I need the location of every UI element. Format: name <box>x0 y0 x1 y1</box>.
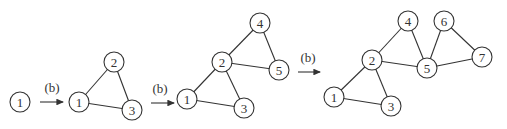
node-label: 3 <box>388 99 395 114</box>
node-label: 7 <box>479 50 486 65</box>
node-2: 2 <box>104 52 124 72</box>
node-6: 6 <box>434 11 454 31</box>
node-5: 5 <box>417 58 437 78</box>
node-3: 3 <box>122 100 142 120</box>
node-7: 7 <box>472 47 492 67</box>
node-label: 4 <box>257 16 264 31</box>
node-label: 1 <box>331 90 338 105</box>
node-label: 1 <box>76 95 83 110</box>
node-label: 5 <box>424 61 431 76</box>
node-1: 1 <box>177 89 197 109</box>
node-1: 1 <box>69 92 89 112</box>
node-4: 4 <box>250 13 270 33</box>
node-2: 2 <box>212 52 232 72</box>
node-label: 3 <box>241 101 248 116</box>
node-1: 1 <box>10 92 30 112</box>
node-label: 1 <box>184 92 191 107</box>
node-label: 2 <box>219 55 226 70</box>
node-2: 2 <box>362 50 382 70</box>
node-label: 2 <box>369 53 376 68</box>
node-label: 3 <box>129 103 136 118</box>
node-5: 5 <box>269 60 289 80</box>
node-label: 4 <box>405 14 412 29</box>
node-label: 2 <box>111 55 118 70</box>
step-label: (b) <box>300 50 315 65</box>
nodes-layer: 1123123451234567 <box>10 11 492 120</box>
node-4: 4 <box>398 11 418 31</box>
node-3: 3 <box>381 96 401 116</box>
node-label: 6 <box>441 14 448 29</box>
graph-growth-diagram: (b)(b)(b) 1123123451234567 <box>0 0 507 129</box>
step-label: (b) <box>152 81 167 96</box>
node-label: 1 <box>17 95 24 110</box>
step-label: (b) <box>44 80 59 95</box>
node-label: 5 <box>276 63 283 78</box>
node-1: 1 <box>324 87 344 107</box>
node-3: 3 <box>234 98 254 118</box>
